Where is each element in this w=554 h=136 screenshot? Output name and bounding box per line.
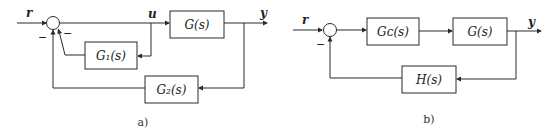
arrowhead-icon bbox=[456, 77, 461, 82]
input-label-r: r bbox=[302, 13, 310, 27]
control-label-u: u bbox=[148, 7, 157, 21]
minus-sign: − bbox=[316, 38, 325, 51]
summing-junction bbox=[47, 17, 60, 30]
block-Gc-label: Gᴄ(s) bbox=[377, 25, 409, 39]
arrowhead-icon bbox=[362, 28, 367, 33]
output-label-y: y bbox=[259, 6, 268, 20]
diagram-a: r − − u G(s) y G₁(s) G₂(s) a) bbox=[17, 6, 268, 129]
arrowhead-icon bbox=[263, 21, 268, 26]
diagram-b: r − Gᴄ(s) G(s) y H(s) b) bbox=[293, 13, 542, 126]
arrowhead-icon bbox=[58, 29, 63, 35]
output-label-y: y bbox=[527, 15, 536, 29]
block-G-label: G(s) bbox=[467, 25, 492, 39]
block-G2-label: G₂(s) bbox=[157, 83, 187, 97]
arrowhead-icon bbox=[165, 21, 170, 26]
block-H-label: H(s) bbox=[415, 73, 442, 87]
inner-feedback-tap bbox=[138, 23, 151, 56]
minus-sign-inner: − bbox=[63, 27, 72, 40]
caption-b: b) bbox=[423, 113, 434, 126]
arrowhead-icon bbox=[448, 29, 453, 34]
arrowhead-icon bbox=[137, 54, 142, 59]
block-G-label: G(s) bbox=[184, 18, 209, 32]
arrowhead-icon bbox=[198, 86, 203, 91]
summing-junction bbox=[324, 24, 337, 37]
arrowhead-icon bbox=[328, 37, 333, 42]
arrowhead-icon bbox=[318, 28, 323, 33]
minus-sign-outer: − bbox=[38, 31, 47, 44]
input-label-r: r bbox=[26, 6, 34, 20]
arrowhead-icon bbox=[537, 29, 542, 34]
caption-a: a) bbox=[138, 116, 149, 129]
block-diagrams-figure: r − − u G(s) y G₁(s) G₂(s) a) bbox=[0, 0, 554, 136]
block-G1-label: G₁(s) bbox=[96, 49, 126, 63]
arrowhead-icon bbox=[51, 30, 56, 35]
